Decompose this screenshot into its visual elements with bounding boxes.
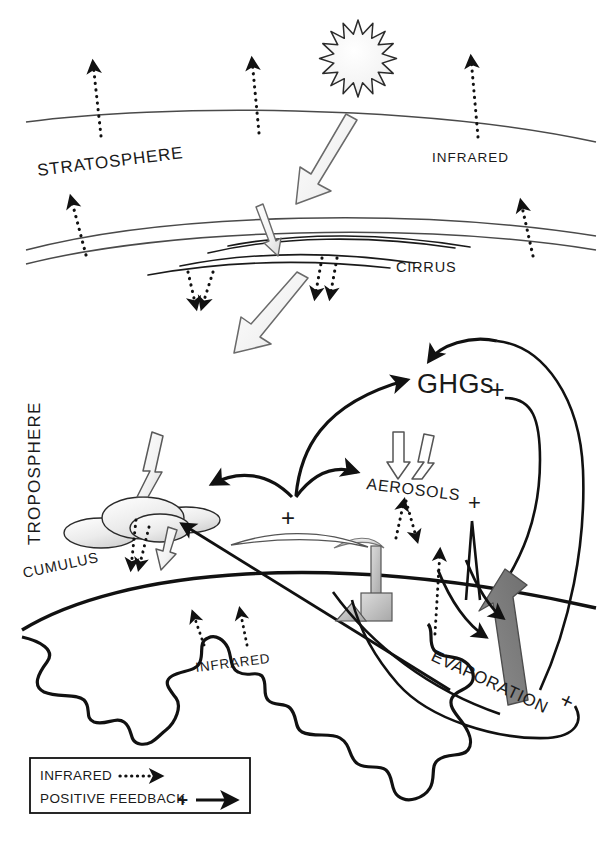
infrared-arrow — [471, 58, 478, 137]
infrared-arrow-group-cirrus-down — [188, 258, 337, 307]
feedback-arrow-junction-to-aerosols — [296, 470, 357, 497]
legend-label-positive-feedback: POSITIVE FEEDBACK — [40, 791, 186, 806]
infrared-arrow — [435, 551, 440, 634]
feedback-arrow-loop-to-ghgs — [429, 339, 497, 361]
ghgs-label: GHGs — [417, 369, 494, 399]
solar-arrow-reflected-tropopause — [256, 204, 281, 256]
solar-arrow-down-aerosol — [387, 432, 410, 479]
evaporation-positive-sign: + — [556, 687, 578, 715]
infrared-arrow — [521, 202, 533, 256]
infrared-arrow — [406, 501, 417, 540]
feedback-loop-inner — [500, 398, 540, 590]
climate-feedback-diagram: STRATOSPHERE TROPOSPHERE INFRARED CIRRUS… — [0, 0, 615, 842]
infrared-arrow — [315, 258, 322, 297]
solar-arrow-up-aerosol — [412, 434, 434, 479]
cirrus-label: CIRRUS — [396, 259, 456, 275]
infrared-arrow-group-surface-right — [435, 551, 440, 634]
infrared-arrow — [71, 198, 86, 255]
infrared-arrow — [202, 272, 213, 307]
infrared-arrow-group-stratosphere — [93, 58, 478, 137]
diagram-canvas: STRATOSPHERE TROPOSPHERE INFRARED CIRRUS… — [0, 0, 615, 842]
aerosol-radiation-arrows — [387, 432, 434, 479]
legend-positive-sign: + — [177, 789, 188, 810]
legend-label-infrared: INFRARED — [40, 768, 112, 783]
stratosphere-boundary — [26, 110, 596, 142]
solar-arrow-incoming-lower — [234, 272, 308, 353]
tropopause-boundary-upper — [26, 218, 596, 250]
infrared-label-top: INFRARED — [432, 150, 509, 165]
solar-arrow-up-cumulus — [137, 432, 163, 497]
sun-icon — [320, 20, 397, 97]
ghgs-positive-sign: + — [490, 375, 505, 403]
cumulus-label: CUMULUS — [21, 549, 100, 581]
infrared-arrow-group-tropopause — [71, 198, 533, 256]
cumulus-cloud-icon — [64, 497, 220, 548]
legend: INFRARED POSITIVE FEEDBACK + — [30, 758, 250, 813]
aerosols-positive-sign: + — [468, 490, 481, 515]
factory-icon — [231, 534, 392, 621]
infrared-arrow — [252, 60, 259, 133]
infrared-arrow — [193, 613, 204, 645]
troposphere-label: TROPOSPHERE — [25, 401, 44, 545]
solar-arrow-incoming-upper — [296, 114, 357, 204]
infrared-arrow-group-aerosols — [396, 501, 417, 540]
stratosphere-label: STRATOSPHERE — [36, 143, 184, 180]
infrared-arrow — [240, 610, 247, 645]
infrared-arrow — [188, 272, 196, 307]
infrared-arrow — [396, 501, 404, 538]
central-positive-sign: + — [281, 504, 295, 531]
feedback-arrow-junction-to-cumulus — [212, 475, 292, 497]
infrared-arrow — [93, 63, 101, 136]
